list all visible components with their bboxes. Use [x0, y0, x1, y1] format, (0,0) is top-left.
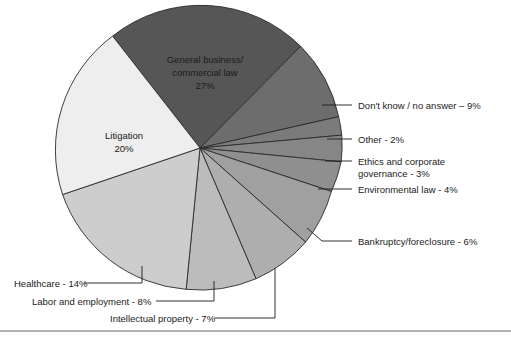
callout-intellectual-property: Intellectual property - 7%	[110, 313, 216, 324]
callout-labels-right: Don't know / no answer – 9% Other - 2% E…	[358, 100, 481, 247]
label-litigation: Litigation	[105, 130, 143, 141]
label-litigation-percent: 20%	[114, 143, 134, 154]
callout-bankruptcy-foreclosure: Bankruptcy/foreclosure - 6%	[358, 236, 478, 247]
label-general-business-line1: General business/	[167, 54, 244, 65]
callout-ethics-line2: governance - 3%	[358, 168, 430, 179]
callout-other: Other - 2%	[358, 134, 404, 145]
callout-healthcare: Healthcare - 14%	[14, 278, 88, 289]
callout-dont-know-no-answer: Don't know / no answer – 9%	[358, 100, 481, 111]
callout-ethics-line1: Ethics and corporate	[358, 156, 445, 167]
label-general-business-line2: commercial law	[172, 67, 238, 78]
callout-environmental-law: Environmental law - 4%	[358, 184, 458, 195]
pie-chart-figure: General business/ commercial law 27% Lit…	[0, 0, 511, 343]
label-general-business-percent: 27%	[195, 80, 215, 91]
callout-labor-and-employment: Labor and employment - 8%	[32, 296, 152, 307]
pie-slices	[55, 5, 342, 290]
